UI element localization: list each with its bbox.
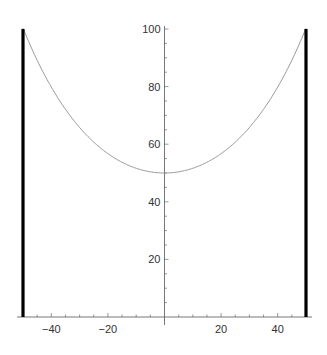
y-tick-label: 60 <box>148 138 160 150</box>
y-tick-label: 20 <box>148 253 160 265</box>
axes <box>17 26 312 325</box>
x-tick-label: 20 <box>215 323 227 335</box>
x-tick-label: −40 <box>42 323 61 335</box>
figure-caption: The cable hanging between two poles of e… <box>0 347 327 355</box>
y-tick-label: 80 <box>148 81 160 93</box>
x-tick-label: −20 <box>99 323 118 335</box>
x-tick-label: 40 <box>272 323 284 335</box>
y-tick-label: 100 <box>142 23 160 35</box>
y-tick-label: 40 <box>148 196 160 208</box>
catenary-chart: −40−20204020406080100 <box>0 0 327 355</box>
